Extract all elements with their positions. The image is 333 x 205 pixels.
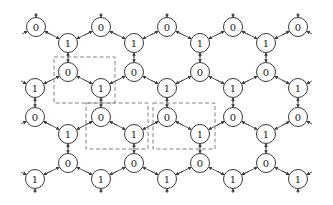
lattice-node: 0 <box>224 18 243 37</box>
node-label: 1 <box>230 83 236 94</box>
lattice-edge <box>22 31 28 34</box>
lattice-node: 0 <box>289 108 308 127</box>
node-label: 1 <box>164 174 170 185</box>
lattice-node: 1 <box>59 125 78 144</box>
lattice-node: 0 <box>224 108 243 127</box>
lattice-node: 0 <box>27 18 46 37</box>
lattice-node: 0 <box>289 18 308 37</box>
lattice-edge <box>306 172 312 175</box>
lattice-node: 1 <box>92 79 111 98</box>
node-label: 0 <box>197 67 203 78</box>
honeycomb-diagram: 000001111000011111000001111000011111 <box>0 0 333 205</box>
lattice-node: 1 <box>224 79 243 98</box>
node-label: 0 <box>33 22 39 33</box>
node-label: 1 <box>164 83 170 94</box>
node-label: 0 <box>164 112 170 123</box>
lattice-edge <box>306 121 312 124</box>
node-label: 0 <box>263 158 269 169</box>
node-label: 0 <box>197 158 203 169</box>
lattice-node: 0 <box>125 63 144 82</box>
lattice-node: 1 <box>125 125 144 144</box>
lattice-edge <box>306 81 312 84</box>
lattice-node: 1 <box>158 170 177 189</box>
node-label: 0 <box>98 22 104 33</box>
node-label: 1 <box>230 174 236 185</box>
lattice-node: 1 <box>26 170 45 189</box>
lattice-node: 1 <box>191 125 210 144</box>
node-label: 0 <box>98 112 104 123</box>
lattice-node: 0 <box>92 18 111 37</box>
node-label: 1 <box>32 83 38 94</box>
node-label: 0 <box>32 112 38 123</box>
node-label: 1 <box>65 38 71 49</box>
node-label: 0 <box>230 112 236 123</box>
lattice-node: 1 <box>59 34 78 53</box>
lattice-node: 0 <box>257 63 276 82</box>
lattice-edge <box>21 81 27 84</box>
lattice-node: 1 <box>125 34 144 53</box>
node-label: 0 <box>295 112 301 123</box>
lattice-node: 0 <box>191 63 210 82</box>
node-label: 0 <box>263 67 269 78</box>
node-label: 0 <box>164 22 170 33</box>
lattice-node: 1 <box>26 79 45 98</box>
node-label: 1 <box>131 38 137 49</box>
lattice-node: 1 <box>289 79 308 98</box>
node-label: 0 <box>65 158 71 169</box>
lattice-node: 1 <box>257 34 276 53</box>
lattice-node: 1 <box>92 170 111 189</box>
lattice-node: 1 <box>224 170 243 189</box>
node-label: 1 <box>295 174 301 185</box>
lattice-edge <box>306 31 312 34</box>
node-label: 1 <box>263 38 269 49</box>
node-label: 1 <box>263 129 269 140</box>
lattice-node: 0 <box>125 154 144 173</box>
node-label: 1 <box>131 129 137 140</box>
lattice-node: 0 <box>59 154 78 173</box>
lattice-node: 0 <box>59 63 78 82</box>
lattice-node: 0 <box>26 108 45 127</box>
lattice-edge <box>21 172 27 175</box>
lattice-node: 0 <box>92 108 111 127</box>
lattice-node: 0 <box>257 154 276 173</box>
node-label: 0 <box>295 22 301 33</box>
node-label: 1 <box>98 83 104 94</box>
node-label: 1 <box>65 129 71 140</box>
node-label: 1 <box>98 174 104 185</box>
lattice-edge <box>21 121 27 124</box>
lattice-node: 0 <box>158 108 177 127</box>
node-label: 0 <box>65 67 71 78</box>
lattice-node: 1 <box>191 34 210 53</box>
lattice-node: 1 <box>289 170 308 189</box>
lattice-node: 0 <box>158 18 177 37</box>
node-label: 1 <box>295 83 301 94</box>
node-label: 1 <box>197 38 203 49</box>
lattice-node: 1 <box>257 125 276 144</box>
node-label: 0 <box>230 22 236 33</box>
node-label: 0 <box>131 67 137 78</box>
node-label: 0 <box>131 158 137 169</box>
node-label: 1 <box>197 129 203 140</box>
lattice-node: 0 <box>191 154 210 173</box>
lattice-node: 1 <box>158 79 177 98</box>
node-label: 1 <box>32 174 38 185</box>
